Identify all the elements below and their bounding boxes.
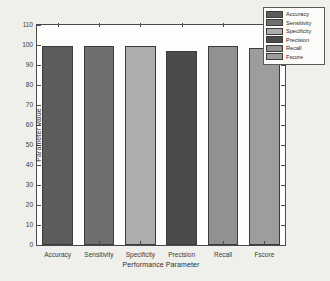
x-tick-label: Fscore	[254, 250, 274, 259]
plot-inner: 0102030405060708090100110AccuracySensiti…	[37, 25, 285, 245]
chart-legend: AccuracySensitivitySpecificityPrecisionR…	[263, 7, 325, 65]
x-tick-mark-top	[58, 23, 59, 27]
y-tick-label: 110	[23, 20, 33, 29]
y-tick-mark	[37, 225, 41, 226]
legend-label: Accuracy	[286, 10, 309, 18]
legend-label: Fscore	[286, 53, 303, 61]
y-tick-mark	[37, 45, 41, 46]
y-tick-mark-right	[281, 245, 285, 246]
x-tick-mark	[182, 241, 183, 245]
bar-fscore	[249, 48, 280, 245]
y-tick-label: 30	[26, 180, 33, 189]
y-tick-label: 20	[26, 200, 33, 209]
legend-swatch-icon	[266, 11, 283, 18]
y-tick-mark-right	[281, 225, 285, 226]
x-tick-label: Sensitivity	[84, 250, 113, 259]
y-tick-mark-right	[281, 205, 285, 206]
x-tick-label: Precision	[168, 250, 195, 259]
y-tick-mark-right	[281, 165, 285, 166]
legend-swatch-icon	[266, 45, 283, 52]
legend-swatch-icon	[266, 28, 283, 35]
x-tick-mark-top	[223, 23, 224, 27]
y-tick-mark	[37, 205, 41, 206]
x-tick-label: Accuracy	[44, 250, 71, 259]
y-tick-label: 60	[26, 120, 33, 129]
x-tick-label: Specificity	[126, 250, 155, 259]
y-tick-mark	[37, 65, 41, 66]
legend-swatch-icon	[266, 36, 283, 43]
bar-accuracy	[42, 46, 73, 245]
legend-swatch-icon	[266, 53, 283, 60]
y-tick-label: 50	[26, 140, 33, 149]
y-tick-label: 80	[26, 80, 33, 89]
legend-label: Precision	[286, 36, 309, 44]
bar-precision	[166, 51, 197, 245]
figure-canvas: 0102030405060708090100110AccuracySensiti…	[0, 0, 330, 281]
y-tick-label: 70	[26, 100, 33, 109]
legend-item-specificity[interactable]: Specificity	[266, 27, 322, 35]
bar-sensitivity	[84, 46, 115, 245]
y-tick-label: 100	[22, 40, 33, 49]
legend-label: Specificity	[286, 27, 311, 35]
y-tick-label: 10	[26, 220, 33, 229]
x-tick-mark	[140, 241, 141, 245]
x-tick-mark	[58, 241, 59, 245]
bar-specificity	[125, 46, 156, 245]
x-tick-label: Recall	[214, 250, 232, 259]
y-tick-mark-right	[281, 145, 285, 146]
x-tick-mark	[223, 241, 224, 245]
legend-label: Sensitivity	[286, 19, 311, 27]
legend-item-recall[interactable]: Recall	[266, 44, 322, 52]
plot-area: 0102030405060708090100110AccuracySensiti…	[36, 24, 286, 246]
x-tick-mark	[264, 241, 265, 245]
y-tick-mark	[37, 105, 41, 106]
y-tick-mark-right	[281, 125, 285, 126]
y-tick-mark	[37, 85, 41, 86]
legend-item-accuracy[interactable]: Accuracy	[266, 10, 322, 18]
y-tick-mark	[37, 25, 41, 26]
bar-recall	[208, 46, 239, 245]
y-tick-mark-right	[281, 105, 285, 106]
legend-item-fscore[interactable]: Fscore	[266, 53, 322, 61]
y-tick-mark-right	[281, 65, 285, 66]
x-axis-label: Performance Parameter	[36, 261, 286, 268]
y-tick-label: 40	[26, 160, 33, 169]
y-tick-label: 90	[26, 60, 33, 69]
y-tick-mark-right	[281, 85, 285, 86]
y-tick-label: 0	[29, 240, 33, 249]
legend-item-precision[interactable]: Precision	[266, 36, 322, 44]
x-tick-mark-top	[182, 23, 183, 27]
y-tick-mark	[37, 165, 41, 166]
x-tick-mark-top	[99, 23, 100, 27]
legend-swatch-icon	[266, 19, 283, 26]
y-tick-mark	[37, 185, 41, 186]
x-tick-mark-top	[140, 23, 141, 27]
y-axis-label: Parameter Value	[35, 108, 42, 162]
y-tick-mark	[37, 245, 41, 246]
x-tick-mark	[99, 241, 100, 245]
legend-label: Recall	[286, 44, 302, 52]
y-tick-mark-right	[281, 185, 285, 186]
legend-item-sensitivity[interactable]: Sensitivity	[266, 19, 322, 27]
